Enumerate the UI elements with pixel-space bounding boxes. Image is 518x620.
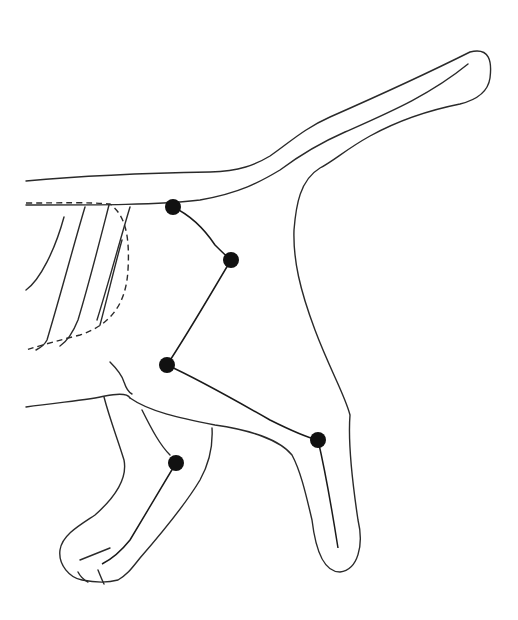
joint-marker — [159, 357, 175, 373]
rib-1 — [26, 217, 64, 290]
bone-segment-3 — [167, 365, 318, 440]
foreleg-toe-line — [80, 548, 110, 560]
foreleg-outline — [60, 397, 212, 582]
foreleg-inner — [142, 410, 170, 455]
bone-segment-4 — [318, 440, 338, 548]
belly-outline — [26, 394, 130, 407]
bone-segment-5 — [102, 463, 176, 564]
rib-3 — [60, 205, 109, 346]
rib-4 — [97, 207, 130, 320]
joint-marker — [168, 455, 184, 471]
bone-segment-1 — [173, 207, 231, 260]
back-outline — [26, 51, 491, 572]
rib-5 — [100, 240, 122, 325]
joint-marker — [223, 252, 239, 268]
cat-hindquarters-drawing — [0, 0, 518, 620]
diagram-canvas — [0, 0, 518, 620]
joint-marker — [165, 199, 181, 215]
joint-marker — [310, 432, 326, 448]
bone-segment-2 — [167, 260, 231, 365]
flank-notch — [110, 362, 132, 394]
